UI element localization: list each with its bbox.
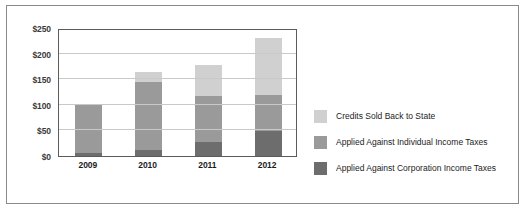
bar-segment <box>135 150 162 156</box>
y-axis-tick-label: $200 <box>32 50 51 59</box>
bar-group <box>75 30 102 156</box>
bar-segment <box>135 72 162 82</box>
y-axis: $250$200$150$100$50$0 <box>14 12 54 157</box>
plot-area <box>58 29 297 157</box>
bars-layer <box>59 30 296 156</box>
y-axis-tick-label: $0 <box>42 153 51 162</box>
bar-group <box>135 30 162 156</box>
bar-segment <box>195 142 222 156</box>
gridline <box>59 129 296 130</box>
chart-legend: Credits Sold Back to StateApplied Agains… <box>314 106 514 184</box>
gridline <box>59 53 296 54</box>
gridline <box>59 78 296 79</box>
legend-swatch-icon <box>314 162 327 175</box>
legend-item[interactable]: Credits Sold Back to State <box>314 106 514 127</box>
legend-swatch-icon <box>314 136 327 149</box>
bar-segment <box>75 153 102 156</box>
legend-label: Credits Sold Back to State <box>336 112 435 121</box>
bar-group <box>195 30 222 156</box>
legend-swatch-icon <box>314 110 327 123</box>
bar-segment <box>255 38 282 94</box>
bar-segment <box>135 82 162 150</box>
bar-group <box>255 30 282 156</box>
legend-label: Applied Against Individual Income Taxes <box>336 138 488 147</box>
y-axis-tick-label: $250 <box>32 25 51 34</box>
x-axis-tick-label: 2009 <box>78 160 97 170</box>
legend-item[interactable]: Applied Against Individual Income Taxes <box>314 132 514 153</box>
y-axis-tick-label: $50 <box>37 127 51 136</box>
legend-item[interactable]: Applied Against Corporation Income Taxes <box>314 158 514 179</box>
x-axis-tick-label: 2010 <box>138 160 157 170</box>
x-axis: 2009201020112012 <box>58 160 297 178</box>
gridline <box>59 104 296 105</box>
y-axis-tick-label: $150 <box>32 76 51 85</box>
bar-segment <box>255 131 282 156</box>
y-axis-tick-label: $100 <box>32 102 51 111</box>
chart-figure: $250$200$150$100$50$0 2009201020112012 C… <box>0 0 525 210</box>
x-axis-tick-label: 2012 <box>258 160 277 170</box>
bar-segment <box>255 95 282 132</box>
legend-label: Applied Against Corporation Income Taxes <box>336 164 496 173</box>
bar-segment <box>195 65 222 96</box>
plot-container: $250$200$150$100$50$0 2009201020112012 <box>14 12 304 192</box>
x-axis-tick-label: 2011 <box>198 160 216 170</box>
